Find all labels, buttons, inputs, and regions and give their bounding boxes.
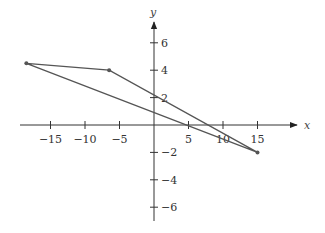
x-tick-label: −10 bbox=[73, 133, 96, 146]
data-point bbox=[107, 68, 111, 72]
coordinate-plane: x y −15−10−551015 642−2−4−6 bbox=[0, 0, 325, 233]
data-point bbox=[24, 61, 28, 65]
y-axis-label: y bbox=[149, 6, 157, 19]
y-tick-label: 6 bbox=[161, 37, 168, 50]
x-tick-label: −5 bbox=[111, 133, 127, 146]
x-tick-label: 15 bbox=[251, 133, 265, 146]
y-tick-label: −2 bbox=[161, 146, 177, 159]
y-tick-label: −6 bbox=[161, 201, 177, 214]
y-tick-label: 4 bbox=[161, 64, 168, 77]
data-point bbox=[256, 150, 260, 154]
y-tick-label: −4 bbox=[161, 174, 177, 187]
x-axis-label: x bbox=[304, 119, 311, 132]
x-tick-label: 5 bbox=[185, 133, 192, 146]
x-tick-label: −15 bbox=[39, 133, 62, 146]
